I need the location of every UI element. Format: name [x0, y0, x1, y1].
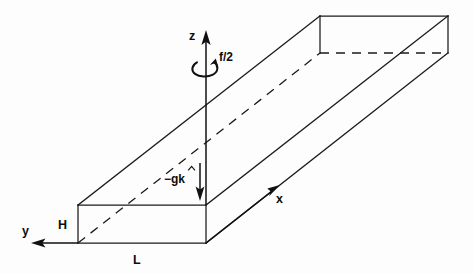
- rotation-arc: [192, 62, 217, 76]
- gravity-label: −gk: [164, 172, 185, 186]
- figure-canvas: z f/2 −gk x y: [0, 0, 473, 274]
- hidden-edges-group: [78, 53, 448, 243]
- z-axis-label: z: [189, 29, 195, 43]
- box-visible-edges-group: [78, 16, 448, 243]
- channel-diagram-svg: z f/2 −gk x y: [0, 0, 473, 274]
- hidden-edge-bottom-back-long: [78, 53, 320, 243]
- gravity-label-text: −g: [164, 172, 178, 186]
- rotation-f-over-2-group: f/2: [192, 50, 233, 76]
- width-label-L: L: [133, 253, 141, 267]
- gravity-unit-vector-text: k: [178, 172, 185, 186]
- x-axis-label: x: [276, 192, 283, 206]
- height-label-H: H: [58, 218, 67, 232]
- gravity-hat-accent: [188, 166, 195, 170]
- rotation-arrowhead: [210, 59, 218, 67]
- long-edge-top-right: [206, 16, 448, 205]
- long-edge-top-left: [78, 16, 320, 205]
- gravity-vector-group: −gk: [164, 163, 204, 201]
- rotation-rate-label: f/2: [219, 50, 233, 64]
- x-axis-group: x: [206, 185, 283, 243]
- y-axis-label: y: [22, 224, 29, 238]
- y-axis-group: y: [22, 224, 78, 248]
- x-axis-line: [206, 191, 272, 243]
